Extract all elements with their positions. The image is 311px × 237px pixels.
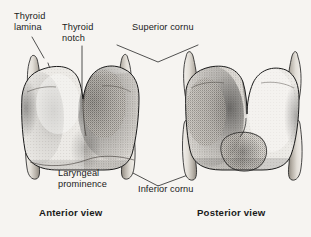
label-thyroid-lamina: Thyroid lamina — [14, 11, 45, 32]
label-laryngeal-prominence: Laryngeal prominence — [58, 168, 107, 189]
label-inferior-cornu: Inferior cornu — [138, 184, 194, 195]
label-thyroid-notch: Thyroid notch — [62, 22, 93, 43]
caption-posterior-view: Posterior view — [197, 208, 265, 219]
caption-anterior-view: Anterior view — [39, 208, 102, 219]
thyroid-cartilage-illustration — [0, 0, 311, 237]
label-superior-cornu: Superior cornu — [132, 22, 194, 33]
